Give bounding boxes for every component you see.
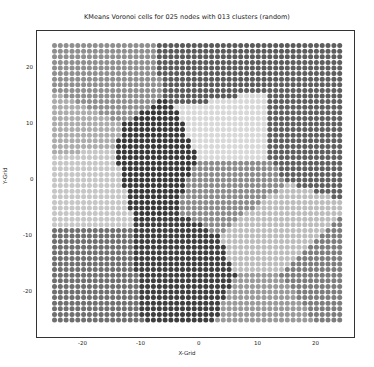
x-tick-label: 20 (312, 340, 319, 346)
x-axis-label: X-Grid (0, 350, 374, 356)
plot-area (36, 30, 355, 338)
y-tick-label: 0 (30, 176, 34, 182)
y-tick-label: -10 (23, 232, 32, 238)
y-tick-label: 10 (26, 120, 33, 126)
y-tick-label: 20 (26, 64, 33, 70)
y-axis-label: Y-Grid (2, 168, 8, 184)
x-tick-label: 0 (197, 340, 201, 346)
x-tick-label: -20 (78, 340, 87, 346)
chart-title: KMeans Voronoi cells for 025 nodes with … (0, 13, 374, 21)
x-tick-label: 10 (254, 340, 261, 346)
x-tick-label: -10 (136, 340, 145, 346)
voronoi-scatter (37, 31, 354, 337)
y-tick-label: -20 (23, 288, 32, 294)
